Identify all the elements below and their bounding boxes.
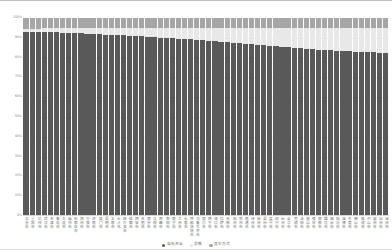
bar-segment[interactable]: [206, 41, 211, 216]
bar-column[interactable]: [164, 18, 169, 216]
bar-segment[interactable]: [310, 49, 315, 216]
bar-segment[interactable]: [322, 28, 327, 50]
bar-segment[interactable]: [377, 18, 382, 28]
bar-segment[interactable]: [292, 28, 297, 48]
bar-segment[interactable]: [170, 38, 175, 216]
bar-segment[interactable]: [133, 18, 138, 28]
bar-segment[interactable]: [78, 18, 83, 28]
bar-column[interactable]: [249, 18, 254, 216]
bar-segment[interactable]: [42, 32, 47, 216]
bar-segment[interactable]: [194, 40, 199, 216]
bar-segment[interactable]: [346, 51, 351, 216]
bar-segment[interactable]: [200, 18, 205, 28]
bar-segment[interactable]: [97, 18, 102, 28]
bar-segment[interactable]: [334, 28, 339, 51]
bar-segment[interactable]: [267, 28, 272, 46]
bar-segment[interactable]: [30, 18, 35, 29]
bar-segment[interactable]: [170, 28, 175, 38]
bar-segment[interactable]: [231, 18, 236, 28]
bar-segment[interactable]: [170, 18, 175, 28]
bar-segment[interactable]: [212, 28, 217, 41]
bar-segment[interactable]: [371, 18, 376, 28]
bar-segment[interactable]: [304, 49, 309, 216]
bar-column[interactable]: [90, 18, 95, 216]
bar-segment[interactable]: [182, 18, 187, 28]
bar-column[interactable]: [115, 18, 120, 216]
bar-column[interactable]: [359, 18, 364, 216]
bar-segment[interactable]: [225, 18, 230, 28]
bar-column[interactable]: [285, 18, 290, 216]
bar-segment[interactable]: [115, 18, 120, 28]
bar-segment[interactable]: [23, 18, 28, 29]
bar-segment[interactable]: [121, 18, 126, 28]
bar-segment[interactable]: [237, 28, 242, 43]
bar-column[interactable]: [139, 18, 144, 216]
bar-segment[interactable]: [249, 18, 254, 28]
bar-segment[interactable]: [365, 52, 370, 216]
bar-segment[interactable]: [298, 28, 303, 48]
bar-segment[interactable]: [365, 28, 370, 52]
bar-segment[interactable]: [103, 35, 108, 216]
bar-segment[interactable]: [310, 18, 315, 28]
bar-segment[interactable]: [237, 43, 242, 216]
chart-legend[interactable]: 自有资金贷款其它方式: [0, 243, 392, 247]
bar-segment[interactable]: [158, 18, 163, 28]
bar-segment[interactable]: [60, 33, 65, 216]
bar-column[interactable]: [170, 18, 175, 216]
bar-segment[interactable]: [340, 51, 345, 216]
bar-column[interactable]: [340, 18, 345, 216]
bar-segment[interactable]: [212, 41, 217, 216]
bar-segment[interactable]: [261, 45, 266, 216]
bar-segment[interactable]: [328, 18, 333, 28]
bar-column[interactable]: [353, 18, 358, 216]
bar-segment[interactable]: [188, 18, 193, 28]
bar-segment[interactable]: [139, 36, 144, 216]
bar-segment[interactable]: [267, 46, 272, 216]
bar-segment[interactable]: [383, 53, 388, 216]
bar-column[interactable]: [365, 18, 370, 216]
bar-segment[interactable]: [188, 39, 193, 216]
bar-segment[interactable]: [328, 28, 333, 50]
bar-column[interactable]: [121, 18, 126, 216]
bar-segment[interactable]: [359, 52, 364, 216]
bar-segment[interactable]: [340, 18, 345, 28]
bar-segment[interactable]: [42, 18, 47, 28]
bar-segment[interactable]: [304, 28, 309, 49]
bar-segment[interactable]: [285, 28, 290, 47]
bar-segment[interactable]: [346, 18, 351, 28]
bar-segment[interactable]: [218, 42, 223, 216]
bar-column[interactable]: [279, 18, 284, 216]
bar-column[interactable]: [60, 18, 65, 216]
bar-segment[interactable]: [48, 32, 53, 216]
bar-column[interactable]: [109, 18, 114, 216]
bar-segment[interactable]: [164, 28, 169, 38]
bar-column[interactable]: [346, 18, 351, 216]
bar-segment[interactable]: [346, 28, 351, 51]
bar-column[interactable]: [188, 18, 193, 216]
bar-segment[interactable]: [145, 28, 150, 37]
bar-segment[interactable]: [371, 28, 376, 52]
bar-segment[interactable]: [194, 18, 199, 28]
bar-column[interactable]: [103, 18, 108, 216]
bar-column[interactable]: [304, 18, 309, 216]
bar-segment[interactable]: [261, 28, 266, 45]
bar-segment[interactable]: [188, 28, 193, 39]
bar-segment[interactable]: [298, 48, 303, 216]
bar-segment[interactable]: [200, 28, 205, 40]
bar-column[interactable]: [42, 18, 47, 216]
bar-segment[interactable]: [279, 47, 284, 216]
bar-column[interactable]: [194, 18, 199, 216]
bar-column[interactable]: [84, 18, 89, 216]
bar-segment[interactable]: [127, 28, 132, 36]
bar-segment[interactable]: [90, 34, 95, 216]
bar-column[interactable]: [255, 18, 260, 216]
bar-segment[interactable]: [139, 28, 144, 36]
bar-segment[interactable]: [225, 42, 230, 216]
bar-column[interactable]: [261, 18, 266, 216]
bar-segment[interactable]: [218, 18, 223, 28]
bar-segment[interactable]: [206, 18, 211, 28]
bar-segment[interactable]: [249, 28, 254, 44]
bar-segment[interactable]: [127, 36, 132, 216]
bar-segment[interactable]: [36, 32, 41, 216]
bar-segment[interactable]: [103, 18, 108, 28]
